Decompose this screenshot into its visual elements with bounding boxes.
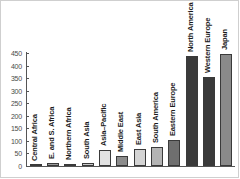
bar[interactable] bbox=[99, 150, 111, 166]
y-tick-label: 200 bbox=[11, 112, 22, 119]
bar[interactable] bbox=[82, 163, 94, 166]
bar-label: Asia–Pacific bbox=[100, 103, 108, 145]
bar-label: North America bbox=[187, 2, 195, 51]
y-tick-400: 400 bbox=[0, 66, 26, 67]
y-tick-label: 300 bbox=[11, 87, 22, 94]
y-tick-label: 0 bbox=[18, 163, 22, 170]
y-tick-label: 50 bbox=[15, 150, 22, 157]
y-tick-100: 100 bbox=[0, 141, 26, 142]
bar-group[interactable]: E. and S. Africa bbox=[47, 53, 59, 166]
y-tick-label: 250 bbox=[11, 100, 22, 107]
y-tick-0: 0 bbox=[0, 166, 26, 167]
plot-area: Central AfricaE. and S. AfricaNorthern A… bbox=[27, 53, 235, 166]
y-tick-label: 450 bbox=[11, 50, 22, 57]
y-tick-200: 200 bbox=[0, 116, 26, 117]
y-tick-label: 350 bbox=[11, 75, 22, 82]
bar[interactable] bbox=[30, 164, 42, 166]
bar-group[interactable]: South America bbox=[151, 53, 163, 166]
bar[interactable] bbox=[168, 140, 180, 166]
x-axis-line bbox=[26, 166, 235, 167]
bar-group[interactable]: North America bbox=[186, 53, 198, 166]
bar-group[interactable]: Asia–Pacific bbox=[99, 53, 111, 166]
bar[interactable] bbox=[151, 147, 163, 166]
bar-group[interactable]: Japan bbox=[220, 53, 232, 166]
bar[interactable] bbox=[186, 56, 198, 166]
bar-label: Western Europe bbox=[204, 18, 212, 73]
bar[interactable] bbox=[220, 54, 232, 166]
bar-label: Middle East bbox=[118, 112, 126, 152]
bar-label: Central Africa bbox=[31, 114, 39, 161]
bar-group[interactable]: South Asia bbox=[82, 53, 94, 166]
y-tick-350: 350 bbox=[0, 78, 26, 79]
bar-group[interactable]: East Asia bbox=[134, 53, 146, 166]
bar[interactable] bbox=[47, 163, 59, 167]
y-tick-300: 300 bbox=[0, 91, 26, 92]
bar[interactable] bbox=[134, 149, 146, 166]
y-tick-150: 150 bbox=[0, 128, 26, 129]
bar-label: East Asia bbox=[135, 113, 143, 145]
bar-label: E. and S. Africa bbox=[48, 106, 56, 158]
bar-label: Eastern Europe bbox=[170, 83, 178, 136]
y-tick-label: 400 bbox=[11, 62, 22, 69]
bar-group[interactable]: Middle East bbox=[116, 53, 128, 166]
bar-group[interactable]: Northern Africa bbox=[64, 53, 76, 166]
bar-label: South Asia bbox=[83, 122, 91, 159]
bar-chart: 050100150200250300350400450 Central Afri… bbox=[0, 0, 240, 179]
bar[interactable] bbox=[116, 156, 128, 166]
y-axis-ticks: 050100150200250300350400450 bbox=[0, 53, 26, 166]
bar-label: Northern Africa bbox=[66, 107, 74, 159]
bar-label: Japan bbox=[222, 29, 230, 50]
y-tick-label: 150 bbox=[11, 125, 22, 132]
bar[interactable] bbox=[64, 164, 76, 167]
y-tick-label: 100 bbox=[11, 137, 22, 144]
y-tick-50: 50 bbox=[0, 153, 26, 154]
bar-group[interactable]: Central Africa bbox=[30, 53, 42, 166]
bar-group[interactable]: Eastern Europe bbox=[168, 53, 180, 166]
y-tick-250: 250 bbox=[0, 103, 26, 104]
y-tick-450: 450 bbox=[0, 53, 26, 54]
bar-label: South America bbox=[152, 92, 160, 143]
bar-group[interactable]: Western Europe bbox=[203, 53, 215, 166]
bar[interactable] bbox=[203, 77, 215, 166]
